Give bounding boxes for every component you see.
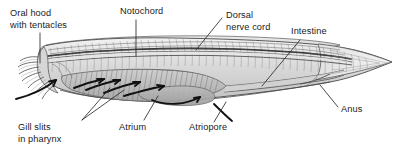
label-gill-slits-line2: in pharynx xyxy=(18,134,62,144)
label-notochord: Notochord xyxy=(120,6,163,16)
label-atriopore: Atriopore xyxy=(189,122,227,132)
label-gill-slits-line1: Gill slits xyxy=(18,122,51,132)
label-oral-hood-line1: Oral hood xyxy=(10,8,51,18)
lancelet-anatomy-figure: Oral hood with tentacles Notochord Dorsa… xyxy=(0,0,408,152)
lancelet-body xyxy=(16,36,392,121)
anatomy-illustration: Oral hood with tentacles Notochord Dorsa… xyxy=(0,0,408,152)
label-atrium: Atrium xyxy=(119,122,146,132)
label-oral-hood-line2: with tentacles xyxy=(9,20,67,30)
label-anus: Anus xyxy=(341,104,363,114)
label-intestine: Intestine xyxy=(291,26,327,36)
label-dorsal-nerve-cord-line2: nerve cord xyxy=(226,22,270,32)
label-dorsal-nerve-cord-line1: Dorsal xyxy=(226,10,253,20)
leader-anus xyxy=(320,85,338,107)
